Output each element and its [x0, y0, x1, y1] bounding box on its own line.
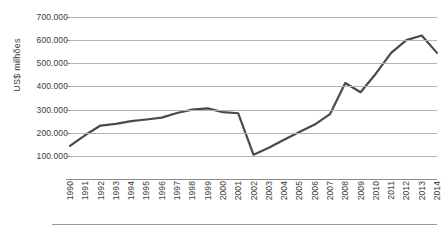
x-tick-label-2002: 2002 [249, 181, 259, 200]
gridline-100000 [70, 156, 437, 157]
x-tick-label-1990: 1990 [65, 181, 75, 200]
x-tick-label-1996: 1996 [157, 181, 167, 200]
x-tick-label-1994: 1994 [126, 181, 136, 200]
x-tick-label-1995: 1995 [141, 181, 151, 200]
gridline-600000 [70, 40, 437, 41]
x-tick-label-2000: 2000 [218, 181, 228, 200]
x-tick-label-2004: 2004 [279, 181, 289, 200]
y-tick-400000 [66, 86, 70, 87]
plot-area [70, 17, 437, 179]
y-tick-label-300000: 300.000 [37, 105, 68, 115]
y-tick-200000 [66, 133, 70, 134]
y-tick-500000 [66, 63, 70, 64]
x-tick-label-2010: 2010 [371, 181, 381, 200]
gridline-300000 [70, 110, 437, 111]
x-tick-label-2008: 2008 [340, 181, 350, 200]
x-axis-tick-labels: 1990199119921993199419951996199719981999… [70, 181, 437, 226]
x-tick-label-2007: 2007 [325, 181, 335, 200]
bottom-rule [52, 224, 437, 225]
y-tick-label-600000: 600.000 [37, 35, 68, 45]
y-tick-100000 [66, 156, 70, 157]
series-line [70, 17, 437, 179]
y-tick-0 [66, 179, 70, 180]
y-tick-label-400000: 400.000 [37, 81, 68, 91]
x-tick-label-2009: 2009 [356, 181, 366, 200]
y-tick-600000 [66, 40, 70, 41]
x-tick-label-2001: 2001 [233, 181, 243, 200]
x-tick-label-1998: 1998 [187, 181, 197, 200]
x-tick-label-1992: 1992 [96, 181, 106, 200]
y-tick-300000 [66, 110, 70, 111]
x-tick-label-1991: 1991 [80, 181, 90, 200]
gridline-700000 [70, 17, 437, 18]
gridline-400000 [70, 86, 437, 87]
x-tick-label-2006: 2006 [310, 181, 320, 200]
x-tick-label-2012: 2012 [401, 181, 411, 200]
y-tick-label-100000: 100.000 [37, 151, 68, 161]
gridline-200000 [70, 133, 437, 134]
x-tick-label-2011: 2011 [386, 181, 396, 200]
x-tick-label-2014: 2014 [432, 181, 442, 200]
y-tick-label-700000: 700.000 [37, 12, 68, 22]
x-tick-label-2005: 2005 [294, 181, 304, 200]
y-tick-700000 [66, 17, 70, 18]
x-tick-label-1999: 1999 [203, 181, 213, 200]
x-tick-label-2003: 2003 [264, 181, 274, 200]
x-tick-label-2013: 2013 [417, 181, 427, 200]
gridline-0 [70, 179, 437, 180]
x-tick-label-1997: 1997 [172, 181, 182, 200]
y-tick-label-200000: 200.000 [37, 128, 68, 138]
line-chart: US$ milhões 700.000600.000500.000400.000… [0, 0, 443, 226]
y-axis-tick-labels: 700.000600.000500.000400.000300.000200.0… [18, 0, 68, 226]
gridline-500000 [70, 63, 437, 64]
y-tick-label-500000: 500.000 [37, 58, 68, 68]
x-tick-label-1993: 1993 [111, 181, 121, 200]
